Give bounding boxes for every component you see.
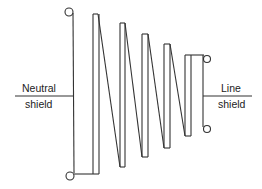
winding-diagram: Neutral shield Line shield <box>0 0 262 189</box>
neutral-shield-stem <box>65 8 99 180</box>
winding-section-4 <box>164 44 185 148</box>
winding-section-3 <box>142 34 164 157</box>
winding-section-5 <box>185 55 204 136</box>
terminal-circle-neutral-bottom <box>66 172 74 180</box>
line-shield-stem <box>203 55 211 133</box>
line-label-line2: shield <box>218 98 246 110</box>
line-label-line1: Line <box>221 82 241 94</box>
winding-section-2 <box>120 23 142 167</box>
neutral-label-line2: shield <box>25 98 53 110</box>
terminal-circle-neutral-top <box>65 8 73 16</box>
winding-sections <box>93 14 204 174</box>
terminal-circle-line-top <box>204 56 211 63</box>
terminal-circle-line-bottom <box>204 126 211 133</box>
neutral-label-line1: Neutral <box>22 82 56 94</box>
winding-section-1 <box>93 14 120 174</box>
neutral-stem-line <box>73 13 74 173</box>
